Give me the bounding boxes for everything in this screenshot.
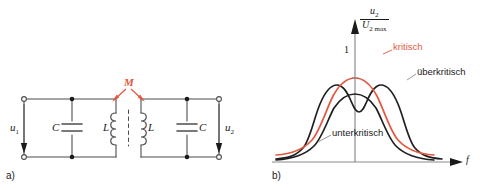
junction-dot [70, 97, 75, 102]
terminal-input-bottom [22, 155, 27, 160]
leader-kritisch [383, 50, 392, 54]
terminal-input-top [22, 97, 27, 102]
y-axis-label: u2 U2 max [360, 6, 389, 34]
inductor-right-label: L [148, 121, 154, 133]
terminal-output-top [217, 97, 222, 102]
capacitor-right-label: C [199, 121, 206, 133]
curve-label-kritisch: kritisch [393, 41, 423, 52]
figure-container: u1 u2 C L L C M a) u2 U2 max 1 f kritisc… [0, 0, 484, 190]
inductor-left-label: L [103, 121, 109, 133]
y-tick-label-1: 1 [344, 44, 349, 55]
figure-svg [0, 0, 484, 190]
junction-dot [185, 155, 190, 160]
junction-dot [185, 97, 190, 102]
curve-label-unterkritisch: unterkritisch [332, 127, 383, 138]
x-axis-arrowhead [450, 158, 463, 166]
curve-label-ueberkritisch: überkritisch [417, 66, 466, 77]
input-voltage-label: u1 [10, 121, 19, 136]
inductor-right-coil [141, 113, 146, 145]
junction-dots [70, 97, 190, 160]
mutual-inductance-label: M [124, 76, 134, 88]
u2-arrow-head [216, 143, 222, 154]
chart-panel-b [272, 19, 463, 166]
x-axis [272, 158, 463, 166]
voltage-arrows [21, 104, 222, 154]
output-voltage-label: u2 [225, 121, 234, 136]
panel-a-label: a) [6, 170, 15, 181]
u1-arrow-head [21, 143, 27, 154]
x-axis-label: f [466, 154, 469, 165]
mutual-inductance-arrows [112, 89, 145, 102]
y-axis [351, 19, 359, 162]
panel-b-label: b) [272, 170, 281, 181]
y-axis-arrowhead [351, 19, 359, 34]
inductor-left-coil [111, 113, 116, 145]
junction-dot [70, 155, 75, 160]
leader-ueberkritisch [407, 74, 416, 80]
terminal-output-bottom [217, 155, 222, 160]
capacitor-left-label: C [52, 121, 59, 133]
